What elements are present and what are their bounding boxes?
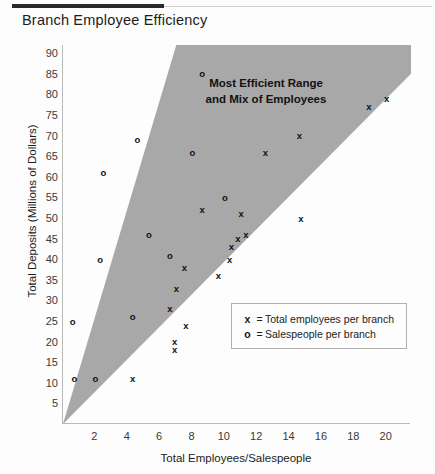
legend-item: o = Salespeople per branch [241, 326, 397, 341]
y-tick-label: 75 [24, 109, 58, 121]
region-annotation-line1: Most Efficient Range [209, 77, 323, 89]
legend-equals: = [254, 328, 265, 340]
y-tick-label: 60 [24, 171, 58, 183]
data-point: x [130, 373, 136, 384]
y-tick-label: 65 [24, 150, 58, 162]
data-point: x [216, 270, 222, 281]
y-tick-label: 55 [24, 191, 58, 203]
legend-marker-x: x [241, 313, 254, 325]
y-tick-label: 10 [24, 377, 58, 389]
y-tick-label: 30 [24, 294, 58, 306]
legend-label: Salespeople per branch [265, 328, 376, 340]
data-point: x [238, 208, 244, 219]
data-point: x [174, 283, 180, 294]
region-annotation-line2: and Mix of Employees [206, 93, 327, 105]
data-point: o [222, 192, 228, 203]
y-axis-ticks: 51015202530354045505560657075808590 [16, 45, 58, 424]
legend-equals: = [254, 313, 265, 325]
data-point: o [71, 373, 77, 384]
x-tick-label: 10 [209, 430, 239, 442]
y-tick-label: 80 [24, 88, 58, 100]
x-tick-label: 12 [241, 430, 271, 442]
y-tick-label: 5 [24, 397, 58, 409]
y-tick-label: 40 [24, 253, 58, 265]
data-point: x [229, 241, 235, 252]
legend-item: x = Total employees per branch [241, 311, 397, 326]
data-point: x [200, 204, 206, 215]
data-point: o [101, 167, 107, 178]
x-axis-ticks: 2468101214161820 [62, 430, 410, 446]
data-point: o [97, 254, 103, 265]
x-tick-label: 6 [144, 430, 174, 442]
y-tick-label: 35 [24, 274, 58, 286]
data-point: x [172, 336, 178, 347]
data-point: x [182, 262, 188, 273]
x-tick-label: 8 [176, 430, 206, 442]
x-tick-label: 16 [306, 430, 336, 442]
legend-label: Total employees per branch [265, 313, 394, 325]
page-title: Branch Employee Efficiency [22, 12, 207, 28]
data-point: o [70, 316, 76, 327]
x-tick-label: 2 [79, 430, 109, 442]
y-tick-label: 25 [24, 315, 58, 327]
data-point: x [263, 147, 269, 158]
x-tick-label: 20 [371, 430, 401, 442]
y-tick-label: 15 [24, 356, 58, 368]
data-point: x [298, 213, 304, 224]
x-tick-label: 4 [112, 430, 142, 442]
y-tick-label: 20 [24, 336, 58, 348]
y-tick-label: 90 [24, 47, 58, 59]
data-point: x [297, 130, 303, 141]
data-point: x [235, 233, 241, 244]
data-point: x [243, 229, 249, 240]
data-point: o [146, 229, 152, 240]
x-tick-label: 14 [274, 430, 304, 442]
chart-legend: x = Total employees per branch o = Sales… [231, 303, 407, 349]
legend-marker-o: o [241, 328, 254, 340]
data-point: x [366, 101, 372, 112]
data-point: x [167, 303, 173, 314]
data-point: o [130, 311, 136, 322]
data-point: x [384, 93, 390, 104]
y-tick-label: 70 [24, 130, 58, 142]
data-point: o [190, 147, 196, 158]
data-point: o [135, 134, 141, 145]
data-point: o [167, 250, 173, 261]
region-annotation: Most Efficient Range and Mix of Employee… [186, 76, 346, 107]
data-point: x [183, 320, 189, 331]
data-point: o [92, 373, 98, 384]
y-tick-label: 45 [24, 233, 58, 245]
x-axis-label: Total Employees/Salespeople [62, 452, 410, 464]
chart-page: Branch Employee Efficiency Total Deposit… [0, 0, 435, 474]
x-tick-label: 18 [338, 430, 368, 442]
y-tick-label: 50 [24, 212, 58, 224]
header-rule-dark [12, 4, 164, 8]
data-point: x [227, 254, 233, 265]
y-tick-label: 85 [24, 68, 58, 80]
